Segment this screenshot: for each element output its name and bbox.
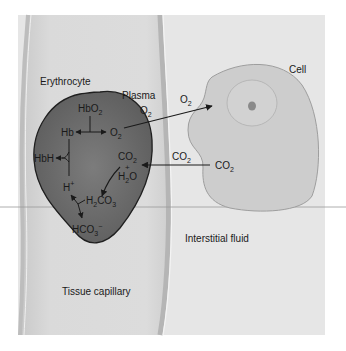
label-tissue-capillary: Tissue capillary bbox=[62, 286, 131, 297]
species-hb: Hb bbox=[61, 127, 74, 138]
species-hco3: HCO3− bbox=[72, 223, 102, 237]
species-hbh: HbH bbox=[34, 153, 54, 164]
gas-exchange-diagram: Erythrocyte Plasma Cell Interstitial flu… bbox=[0, 0, 346, 351]
label-plasma: Plasma bbox=[122, 90, 156, 101]
label-erythrocyte: Erythrocyte bbox=[40, 76, 91, 87]
cell-nucleolus bbox=[248, 102, 256, 111]
label-cell: Cell bbox=[289, 64, 306, 75]
label-interstitial-fluid: Interstitial fluid bbox=[185, 233, 249, 244]
